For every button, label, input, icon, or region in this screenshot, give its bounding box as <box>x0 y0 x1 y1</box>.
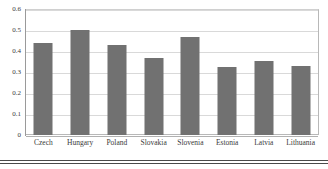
bar-czech[interactable] <box>34 43 53 135</box>
bar-slot <box>99 9 136 135</box>
x-axis: CzechHungaryPolandSlovakiaSloveniaEstoni… <box>25 138 319 154</box>
x-tick-label-hungary: Hungary <box>67 138 93 147</box>
x-tick-label-poland: Poland <box>106 138 127 147</box>
bar-slot <box>62 9 99 135</box>
x-tick-label-latvia: Latvia <box>254 138 273 147</box>
bar-lithuania[interactable] <box>291 66 310 135</box>
bar-slovakia[interactable] <box>144 58 163 135</box>
y-tick-label: 0.4 <box>12 48 21 55</box>
x-tick-label-estonia: Estonia <box>216 138 239 147</box>
bar-slot <box>25 9 62 135</box>
bar-estonia[interactable] <box>218 67 237 135</box>
bar-latvia[interactable] <box>254 61 273 135</box>
bars-layer <box>25 9 319 135</box>
page-divider-rule-bottom <box>0 163 328 164</box>
bar-chart: 00.10.20.30.40.50.6 CzechHungaryPolandSl… <box>0 0 328 169</box>
y-tick-label: 0.3 <box>12 69 21 76</box>
bar-slovenia[interactable] <box>181 37 200 135</box>
x-tick-label-slovenia: Slovenia <box>177 138 203 147</box>
bar-slot <box>209 9 246 135</box>
x-tick-label-slovakia: Slovakia <box>141 138 167 147</box>
page-divider-rule-top <box>0 160 328 161</box>
bar-hungary[interactable] <box>71 30 90 135</box>
bar-slot <box>282 9 319 135</box>
x-tick-label-czech: Czech <box>34 138 53 147</box>
y-tick-label: 0.5 <box>12 27 21 34</box>
y-tick-label: 0 <box>18 132 22 139</box>
bar-slot <box>135 9 172 135</box>
bar-poland[interactable] <box>107 45 126 135</box>
y-tick-label: 0.6 <box>12 6 21 13</box>
y-axis: 00.10.20.30.40.50.6 <box>0 0 25 169</box>
y-tick-label: 0.2 <box>12 90 21 97</box>
x-tick-label-lithuania: Lithuania <box>286 138 315 147</box>
y-tick-label: 0.1 <box>12 111 21 118</box>
gridline-0 <box>26 136 318 137</box>
bar-slot <box>172 9 209 135</box>
bar-slot <box>246 9 283 135</box>
